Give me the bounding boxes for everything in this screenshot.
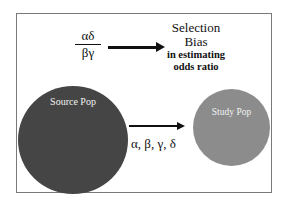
source-population-circle: Source Pop <box>18 86 128 194</box>
selection-bias-label: Selection Bias in estimating odds ratio <box>160 21 232 73</box>
bias-line-4: odds ratio <box>160 61 232 73</box>
fraction-numerator: αδ <box>75 28 101 45</box>
selection-probabilities-label: α, β, γ, δ <box>131 136 176 152</box>
odds-ratio-fraction: αδ βγ <box>75 28 101 61</box>
study-population-circle: Study Pop <box>193 89 270 166</box>
bias-line-3: in estimating <box>160 49 232 61</box>
bias-line-2: Bias <box>160 35 232 49</box>
fraction-denominator: βγ <box>75 45 101 61</box>
source-population-label: Source Pop <box>18 96 128 107</box>
study-population-label: Study Pop <box>193 107 270 117</box>
bias-line-1: Selection <box>160 21 232 35</box>
